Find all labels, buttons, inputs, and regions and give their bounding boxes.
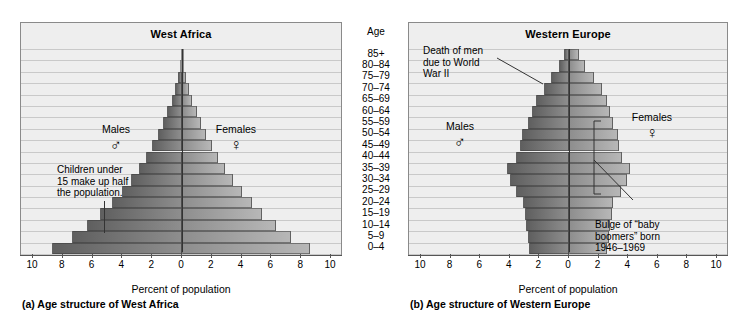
bar-male bbox=[526, 220, 569, 231]
males-label-b: Males bbox=[425, 120, 495, 132]
figure-caption-a: (a) Age structure of West Africa bbox=[22, 298, 179, 310]
x-axis-tick-mark bbox=[657, 254, 658, 258]
x-axis-tick-mark bbox=[420, 254, 421, 258]
x-axis-tick-label: 4 bbox=[506, 259, 512, 270]
annotation-wwii-deaths: Death of men due to World War II bbox=[423, 45, 515, 80]
plot-area-west-africa bbox=[21, 23, 341, 254]
x-axis-tick-mark bbox=[151, 254, 152, 258]
bar-male bbox=[523, 197, 569, 208]
bar-female bbox=[182, 95, 192, 106]
pyramid-row bbox=[409, 83, 727, 94]
pyramid-row bbox=[21, 60, 341, 71]
x-axis-tick-label: 2 bbox=[595, 259, 601, 270]
bar-male bbox=[528, 231, 569, 242]
bar-male bbox=[172, 95, 182, 106]
bar-female bbox=[182, 152, 218, 163]
pyramid-row bbox=[21, 140, 341, 151]
x-axis-tick-mark bbox=[181, 254, 182, 258]
x-axis-tick-label: 10 bbox=[414, 259, 425, 270]
bar-male bbox=[522, 129, 569, 140]
pyramid-row bbox=[21, 152, 341, 163]
bar-female bbox=[569, 60, 585, 71]
age-group-label: 35–39 bbox=[348, 163, 404, 173]
x-axis-tick-mark bbox=[716, 254, 717, 258]
pyramid-row bbox=[21, 95, 341, 106]
bar-male bbox=[516, 152, 569, 163]
bar-female bbox=[569, 174, 627, 185]
x-axis-tick-label: 8 bbox=[447, 259, 453, 270]
axis-caption-a: Percent of population bbox=[20, 283, 342, 295]
bar-male bbox=[510, 174, 569, 185]
chart-panel-western-europe: Western Europe Death of men due to World… bbox=[408, 22, 728, 255]
bar-female bbox=[569, 186, 621, 197]
x-axis-tick-mark bbox=[479, 254, 480, 258]
center-axis-line bbox=[182, 49, 183, 252]
bar-female bbox=[569, 106, 610, 117]
figure-caption-b: (b) Age structure of Western Europe bbox=[410, 298, 590, 310]
x-axis-tick-mark bbox=[450, 254, 451, 258]
age-group-label: 65–69 bbox=[348, 94, 404, 104]
bar-male bbox=[529, 243, 569, 254]
age-group-label: 85+ bbox=[348, 49, 404, 59]
females-label-a: Females bbox=[201, 123, 271, 135]
bar-male bbox=[163, 117, 182, 128]
x-axis-tick-label: 6 bbox=[654, 259, 660, 270]
bar-female bbox=[182, 83, 189, 94]
chart-panel-west-africa: West Africa Males ♂ Females ♀ Children u… bbox=[20, 22, 342, 255]
age-group-label: 55–59 bbox=[348, 117, 404, 127]
bar-male bbox=[167, 106, 182, 117]
males-label-a: Males bbox=[81, 123, 151, 135]
pyramid-row bbox=[21, 72, 341, 83]
bar-male bbox=[152, 140, 182, 151]
female-symbol-icon-b: ♀ bbox=[617, 125, 687, 141]
age-group-label: 40–44 bbox=[348, 151, 404, 161]
bar-female bbox=[182, 174, 233, 185]
age-group-label: 75–79 bbox=[348, 71, 404, 81]
bar-female bbox=[182, 220, 276, 231]
age-group-label: 30–34 bbox=[348, 174, 404, 184]
bar-female bbox=[569, 152, 622, 163]
pyramid-row bbox=[409, 174, 727, 185]
age-label-column: Age 0–45–910–1415–1920–2425–2930–3435–39… bbox=[348, 22, 404, 255]
pyramid-row bbox=[21, 243, 341, 254]
x-axis-tick-mark bbox=[509, 254, 510, 258]
age-group-label: 70–74 bbox=[348, 83, 404, 93]
center-axis-line bbox=[569, 49, 570, 252]
x-axis-tick-mark bbox=[568, 254, 569, 258]
bar-female bbox=[182, 186, 242, 197]
bar-female bbox=[182, 231, 291, 242]
x-axis-tick-mark bbox=[270, 254, 271, 258]
x-axis-tick-label: 8 bbox=[297, 259, 303, 270]
pyramid-row bbox=[409, 186, 727, 197]
x-axis-tick-mark bbox=[121, 254, 122, 258]
age-group-label: 60–64 bbox=[348, 106, 404, 116]
bar-male bbox=[52, 243, 182, 254]
x-axis-tick-label: 6 bbox=[89, 259, 95, 270]
pyramid-row bbox=[21, 49, 341, 60]
bar-male bbox=[158, 129, 182, 140]
bar-female bbox=[182, 208, 262, 219]
annotation-children-under-15: Children under 15 make up half the popul… bbox=[57, 164, 167, 199]
age-group-label: 0–4 bbox=[348, 242, 404, 252]
x-axis-tick-label: 10 bbox=[710, 259, 721, 270]
x-axis-tick-label: 2 bbox=[208, 259, 214, 270]
bar-female bbox=[182, 163, 225, 174]
x-axis-tick-label: 6 bbox=[268, 259, 274, 270]
age-group-label: 25–29 bbox=[348, 185, 404, 195]
bar-male bbox=[544, 83, 569, 94]
x-axis-tick-label: 10 bbox=[26, 259, 37, 270]
panel-title-west-africa: West Africa bbox=[21, 28, 341, 40]
bar-male bbox=[175, 83, 182, 94]
x-axis-tick-label: 4 bbox=[119, 259, 125, 270]
bar-male bbox=[516, 186, 569, 197]
x-axis-tick-label: 2 bbox=[536, 259, 542, 270]
axis-caption-b: Percent of population bbox=[408, 283, 728, 295]
pyramid-row bbox=[21, 231, 341, 242]
x-axis-tick-label: 0 bbox=[178, 259, 184, 270]
x-axis-tick-label: 10 bbox=[324, 259, 335, 270]
age-group-label: 45–49 bbox=[348, 140, 404, 150]
pyramid-row bbox=[409, 95, 727, 106]
bar-male bbox=[520, 140, 569, 151]
bar-female bbox=[569, 83, 602, 94]
x-axis-tick-label: 8 bbox=[59, 259, 65, 270]
